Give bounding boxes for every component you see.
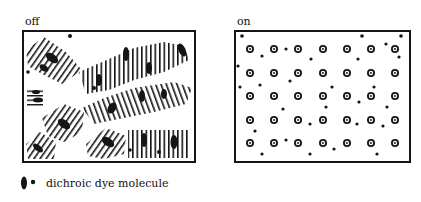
off-state-molecules-illustration [24,32,194,161]
on-state-molecules-illustration [236,32,409,161]
dye-molecule-icon [20,175,38,191]
off-state-panel [22,30,196,163]
legend-label: dichroic dye molecule [46,177,168,190]
on-state-label: on [237,16,251,27]
legend: dichroic dye molecule [20,175,168,191]
on-state-panel [234,30,411,163]
off-state-label: off [25,16,39,27]
